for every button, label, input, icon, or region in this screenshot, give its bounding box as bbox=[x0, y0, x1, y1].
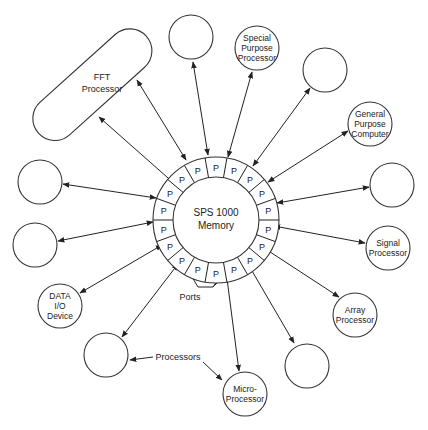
link-left-lower bbox=[58, 222, 153, 241]
node-label: Device bbox=[47, 311, 73, 321]
port-label: P bbox=[259, 189, 265, 199]
link-right bbox=[277, 187, 369, 203]
link-fft-a bbox=[99, 117, 176, 185]
port-label: P bbox=[213, 163, 219, 173]
node-top-right-circle bbox=[303, 48, 347, 92]
port-label: P bbox=[167, 189, 173, 199]
node-special-purpose: SpecialPurposeProcessor bbox=[235, 26, 279, 70]
port-label: P bbox=[195, 265, 201, 275]
port-label: P bbox=[265, 225, 271, 235]
port-label: P bbox=[265, 206, 271, 216]
node-label: Special bbox=[243, 33, 271, 43]
node-array: ArrayProcessor bbox=[333, 293, 377, 337]
link-bottom-left bbox=[122, 264, 178, 337]
memory-title-line1: SPS 1000 bbox=[193, 207, 238, 218]
node-label: Processor bbox=[336, 315, 374, 325]
port-label: P bbox=[213, 269, 219, 279]
node-label: Processor bbox=[369, 248, 407, 258]
node-label: Processor bbox=[238, 53, 276, 63]
fft-label-1: FFT bbox=[94, 72, 111, 82]
node-label: Purpose bbox=[241, 43, 273, 53]
node-right-circle bbox=[370, 163, 414, 207]
node-label: Purpose bbox=[354, 119, 386, 129]
memory-title-line2: Memory bbox=[198, 220, 234, 231]
node-label: Processor bbox=[226, 394, 264, 404]
link-data-io bbox=[80, 245, 162, 293]
node-data-io: DATAI/ODevice bbox=[38, 284, 82, 328]
node-label: General bbox=[355, 109, 385, 119]
diagram-canvas: PPPPPPPPPPPPPPPPPP SPS 1000 Memory FFT P… bbox=[0, 0, 428, 430]
link-bottom-right bbox=[248, 264, 294, 343]
node-left-upper-circle bbox=[18, 160, 62, 204]
node-label: Array bbox=[345, 305, 366, 315]
port-label: P bbox=[231, 265, 237, 275]
link-general bbox=[268, 131, 348, 182]
port-label: P bbox=[167, 242, 173, 252]
node-label: Signal bbox=[376, 238, 400, 248]
link-left-upper bbox=[63, 184, 156, 198]
port-label: P bbox=[247, 175, 253, 185]
port-label: P bbox=[259, 242, 265, 252]
node-micro: Micro-Processor bbox=[223, 372, 267, 416]
node-label: Micro- bbox=[233, 384, 257, 394]
ports-label: Ports bbox=[179, 292, 201, 302]
node-signal: SignalProcessor bbox=[366, 226, 410, 270]
node-general-purpose: GeneralPurposeComputer bbox=[348, 102, 392, 146]
port-label: P bbox=[179, 175, 185, 185]
node-left-lower-circle bbox=[13, 223, 57, 267]
port-label: P bbox=[161, 206, 167, 216]
port-label: P bbox=[231, 166, 237, 176]
node-label: Computer bbox=[351, 129, 388, 139]
link-fft-b bbox=[137, 80, 186, 160]
link-signal bbox=[274, 226, 365, 243]
node-bottom-right-circle bbox=[285, 344, 329, 388]
processors-arrow-b bbox=[203, 362, 222, 380]
link-top-right bbox=[253, 88, 310, 166]
port-label: P bbox=[161, 225, 167, 235]
link-array bbox=[264, 248, 339, 297]
port-label: P bbox=[195, 166, 201, 176]
port-label: P bbox=[179, 256, 185, 266]
node-label: DATA bbox=[49, 291, 71, 301]
link-micro bbox=[226, 271, 239, 371]
processors-arrow-a bbox=[130, 357, 153, 360]
fft-label-2: Processor bbox=[82, 84, 123, 94]
node-bottom-left-circle bbox=[84, 333, 128, 377]
link-top-left bbox=[193, 62, 208, 155]
port-label: P bbox=[247, 256, 253, 266]
processors-label: Processors bbox=[155, 352, 201, 362]
link-special bbox=[228, 72, 252, 157]
node-label: I/O bbox=[54, 301, 66, 311]
node-top-left-circle bbox=[169, 15, 213, 59]
